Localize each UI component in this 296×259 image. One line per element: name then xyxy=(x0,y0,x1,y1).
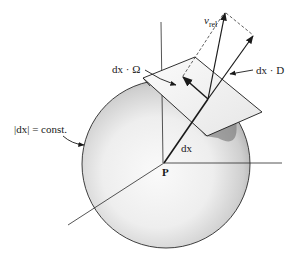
point-p-label: P xyxy=(162,166,169,178)
dx-omega-label: dx · Ω xyxy=(112,63,140,75)
dx-label: dx xyxy=(181,142,193,154)
v-rel-label: vrel xyxy=(204,14,218,29)
dashed-line xyxy=(226,13,253,35)
dx-d-label: dx · D xyxy=(256,64,284,76)
diagram-canvas: vrel dx · Ω dx · D |dx| = const. dx P xyxy=(0,0,296,259)
norm-const-label: |dx| = const. xyxy=(14,123,67,135)
norm-leader xyxy=(63,136,84,145)
dx-d-leader xyxy=(230,70,253,74)
